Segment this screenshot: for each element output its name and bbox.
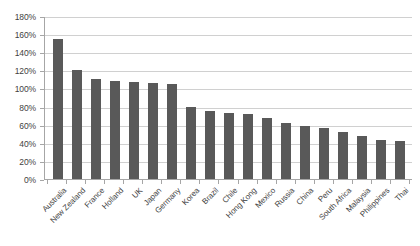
y-tick-label: 60% <box>19 121 36 131</box>
x-tick-label: Thai <box>394 186 411 203</box>
x-tick-label: China <box>295 186 316 207</box>
bar <box>72 70 82 179</box>
bar <box>300 126 310 179</box>
x-tick-label: UK <box>130 186 144 200</box>
plot-area <box>44 17 412 180</box>
bar <box>186 107 196 179</box>
x-tick-mark <box>199 180 200 184</box>
bar <box>376 140 386 179</box>
y-tick-label: 20% <box>19 157 36 167</box>
x-tick-mark <box>161 180 162 184</box>
x-tick-mark <box>66 180 67 184</box>
x-tick-mark <box>180 180 181 184</box>
x-tick-mark <box>333 180 334 184</box>
gridline <box>45 17 412 18</box>
bar <box>205 111 215 179</box>
x-tick-mark <box>257 180 258 184</box>
y-tick-label: 0% <box>24 175 36 185</box>
bar <box>91 79 101 179</box>
bar <box>395 141 405 179</box>
y-tick-label: 120% <box>15 66 36 76</box>
bar <box>110 81 120 179</box>
x-tick-mark <box>47 180 48 184</box>
x-tick-mark <box>409 180 410 184</box>
bar <box>224 113 234 179</box>
bar <box>357 136 367 179</box>
y-axis: 0%20%40%60%80%100%120%140%160%180% <box>0 0 40 197</box>
gridline <box>45 35 412 36</box>
bar <box>338 132 348 179</box>
bar <box>243 114 253 179</box>
y-tick-label: 100% <box>15 84 36 94</box>
bar <box>148 83 158 179</box>
x-tick-label: Russia <box>273 186 296 209</box>
gridline <box>45 71 412 72</box>
x-tick-mark <box>85 180 86 184</box>
bar-chart: 0%20%40%60%80%100%120%140%160%180% Austr… <box>0 0 420 246</box>
bar <box>281 123 291 179</box>
y-tick-label: 160% <box>15 30 36 40</box>
bar <box>262 118 272 179</box>
x-tick-mark <box>314 180 315 184</box>
x-tick-mark <box>295 180 296 184</box>
bar <box>53 39 63 179</box>
x-tick-mark <box>123 180 124 184</box>
y-tick-label: 80% <box>19 103 36 113</box>
x-tick-mark <box>276 180 277 184</box>
x-tick-mark <box>371 180 372 184</box>
x-tick-label: Korea <box>180 186 201 207</box>
x-tick-mark <box>218 180 219 184</box>
x-tick-mark <box>352 180 353 184</box>
x-tick-mark <box>104 180 105 184</box>
bar <box>319 128 329 179</box>
gridline <box>45 53 412 54</box>
y-tick-label: 140% <box>15 48 36 58</box>
y-tick-label: 40% <box>19 139 36 149</box>
x-tick-mark <box>142 180 143 184</box>
x-tick-mark <box>390 180 391 184</box>
bar <box>167 84 177 179</box>
y-tick-mark <box>40 180 44 181</box>
bar <box>129 82 139 179</box>
x-tick-label: Brazil <box>200 186 220 206</box>
x-tick-label: Mexico <box>254 186 278 210</box>
y-tick-label: 180% <box>15 12 36 22</box>
x-tick-mark <box>238 180 239 184</box>
